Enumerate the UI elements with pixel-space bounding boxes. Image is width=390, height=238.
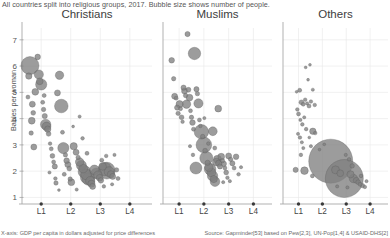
bubble xyxy=(26,95,30,99)
bubble xyxy=(81,137,85,141)
bubble xyxy=(185,31,190,36)
bubble xyxy=(179,107,183,111)
bubble xyxy=(116,177,120,181)
bubble xyxy=(78,115,81,118)
bubble xyxy=(365,180,368,183)
bubble xyxy=(296,132,299,135)
bubble xyxy=(304,127,308,131)
bubble xyxy=(309,63,312,66)
bubble xyxy=(303,116,306,119)
bubble xyxy=(70,143,77,150)
bubble xyxy=(35,54,41,60)
bubble xyxy=(205,160,210,165)
bubble xyxy=(58,142,69,153)
bubble xyxy=(217,164,222,169)
bubble xyxy=(203,148,208,153)
bubble xyxy=(102,185,106,189)
bubble xyxy=(189,109,193,113)
bubble xyxy=(301,167,309,175)
bubble xyxy=(298,136,302,140)
bubble xyxy=(98,178,104,184)
bubble xyxy=(232,166,236,170)
bubble xyxy=(302,146,305,149)
bubble xyxy=(28,117,35,124)
bubble xyxy=(336,185,339,188)
bubble xyxy=(41,100,45,104)
bubble xyxy=(296,108,300,112)
bubble xyxy=(304,66,307,69)
bubble xyxy=(207,142,211,146)
bubble xyxy=(179,115,184,120)
bubble xyxy=(183,93,187,97)
bubble xyxy=(301,102,305,106)
bubble xyxy=(224,170,229,175)
bubble xyxy=(210,175,217,182)
bubble xyxy=(54,177,58,181)
bubble xyxy=(309,100,313,104)
bubble xyxy=(350,164,354,168)
bubble xyxy=(68,177,72,181)
bubble xyxy=(104,154,108,158)
bubble xyxy=(111,183,114,186)
bubble xyxy=(100,158,104,162)
bubble xyxy=(233,154,239,160)
bubble xyxy=(344,153,347,156)
bubble xyxy=(311,88,314,91)
bubble xyxy=(73,149,79,155)
bubble xyxy=(310,174,314,178)
bubble xyxy=(34,70,43,79)
bubble xyxy=(293,167,298,172)
bubble xyxy=(99,163,107,171)
bubble xyxy=(189,115,193,119)
bubble xyxy=(50,154,55,159)
bubble xyxy=(203,117,206,120)
bubble-group-muslims xyxy=(169,31,243,186)
bubble xyxy=(190,162,202,174)
bubble xyxy=(228,157,232,161)
bubble xyxy=(64,158,70,164)
bubble xyxy=(110,173,116,179)
bubble xyxy=(31,144,37,150)
bubble xyxy=(75,188,78,191)
bubble xyxy=(313,131,317,135)
footer-x-axis-note: X-axis: GDP per capita in dollars adjust… xyxy=(1,230,155,236)
bubble xyxy=(67,166,72,171)
bubble xyxy=(299,118,302,121)
bubble xyxy=(208,127,217,136)
bubble xyxy=(171,77,175,81)
bubble xyxy=(308,136,311,139)
bubble xyxy=(337,170,344,177)
bubble xyxy=(41,107,45,111)
bubble xyxy=(220,158,224,162)
bubble xyxy=(215,105,222,112)
bubble xyxy=(60,130,64,134)
bubble xyxy=(297,112,301,116)
bubble xyxy=(169,58,175,64)
bubble xyxy=(42,113,47,118)
bubble xyxy=(36,78,43,85)
bubble xyxy=(295,90,298,93)
bubble xyxy=(299,153,303,157)
bubble xyxy=(85,151,89,155)
bubble xyxy=(90,183,96,189)
bubble xyxy=(62,172,66,176)
bubble xyxy=(55,99,69,113)
bubble xyxy=(174,96,178,100)
bubble xyxy=(186,87,191,92)
bubble xyxy=(347,158,351,162)
bubble xyxy=(182,100,190,108)
bubble xyxy=(197,118,201,122)
bubble xyxy=(191,127,195,131)
footer-source-note: Source: Gapminder[53] based on Pew[2,3],… xyxy=(205,230,388,236)
bubble xyxy=(54,181,58,185)
bubble xyxy=(55,71,63,79)
bubble xyxy=(45,126,51,132)
bubble xyxy=(226,176,230,180)
scatter-plot-canvas xyxy=(0,0,390,238)
bubble xyxy=(29,101,35,107)
bubble xyxy=(213,146,217,150)
bubble xyxy=(190,120,196,126)
bubble xyxy=(194,87,199,92)
bubble xyxy=(32,88,39,95)
bubble xyxy=(176,111,180,115)
